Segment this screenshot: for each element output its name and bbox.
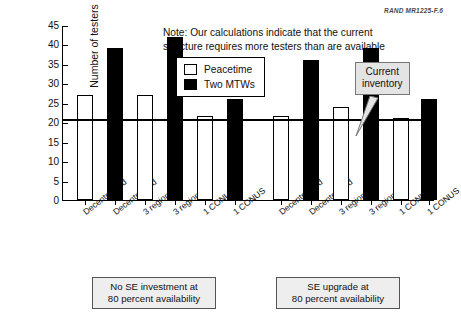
legend-swatch-white-square-icon [184, 64, 197, 75]
group-caption-1-line-1: No SE investment at [99, 281, 209, 293]
y-tick-label-45: 45 [37, 21, 59, 31]
bar-5 [227, 99, 243, 200]
legend-label-two-mtws: Two MTWs [204, 79, 255, 90]
y-tick-label-40: 40 [37, 40, 59, 50]
y-tick-label-35: 35 [37, 60, 59, 70]
bar-6 [273, 116, 289, 200]
y-tick-label-10: 10 [37, 157, 59, 167]
legend-label-peacetime: Peacetime [204, 64, 252, 75]
y-tick-label-20: 20 [37, 118, 59, 128]
bar-10 [393, 118, 409, 200]
bar-4 [197, 116, 213, 200]
group-caption-2-line-2: 80 percent availability [283, 293, 393, 305]
y-tick-label-5: 5 [37, 177, 59, 187]
bar-0 [77, 95, 93, 200]
current-inventory-callout: Current inventory [355, 62, 410, 95]
group-caption-1-line-2: 80 percent availability [99, 293, 209, 305]
y-tick-label-30: 30 [37, 79, 59, 89]
callout-line-2: inventory [362, 78, 403, 90]
callout-line-1: Current [362, 66, 403, 78]
bar-1 [107, 48, 123, 200]
legend-item-peacetime: Peacetime [184, 62, 255, 77]
y-tick-label-15: 15 [37, 138, 59, 148]
bar-2 [137, 95, 153, 200]
rand-figure-id: RAND MR1225-F.6 [384, 7, 443, 14]
legend-item-two-mtws: Two MTWs [184, 77, 255, 92]
bar-11 [421, 99, 437, 200]
group-caption-se-upgrade: SE upgrade at 80 percent availability [276, 277, 400, 309]
y-tick-label-0: 0 [37, 196, 59, 206]
chart-legend: Peacetime Two MTWs [176, 57, 265, 97]
legend-swatch-black-square-icon [184, 79, 197, 90]
group-caption-2-line-1: SE upgrade at [283, 281, 393, 293]
bar-7 [303, 60, 319, 200]
callout-pointer-icon [352, 96, 380, 138]
y-tick-label-25: 25 [37, 99, 59, 109]
group-caption-no-se-investment: No SE investment at 80 percent availabil… [92, 277, 216, 309]
